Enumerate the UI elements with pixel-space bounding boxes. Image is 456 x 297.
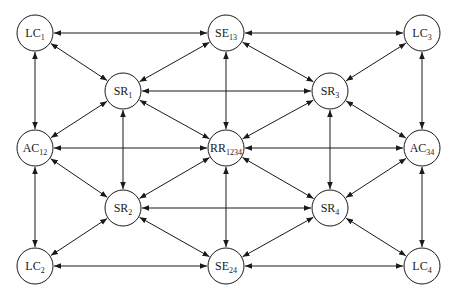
nodes-layer: LC1SE13LC3SR1SR3AC12RR1234AC34SR2SR4LC2S… <box>17 15 440 284</box>
node-label-subscript: 4 <box>335 208 339 217</box>
node-ac34: AC34 <box>404 130 440 166</box>
node-rr1234: RR1234 <box>208 130 244 166</box>
node-sr3: SR3 <box>312 73 348 109</box>
node-sr2: SR2 <box>105 190 141 226</box>
node-label-subscript: 12 <box>39 148 47 157</box>
edge-sr4-se24 <box>243 217 314 257</box>
edge-sr1-se13 <box>140 42 210 81</box>
node-label-base: AC <box>23 141 40 155</box>
node-label-base: LC <box>25 26 40 40</box>
node-label-base: SE <box>215 26 229 40</box>
edge-sr2-lc2 <box>51 218 107 255</box>
edge-sr4-lc4 <box>346 218 406 256</box>
edge-sr4-rr1234 <box>242 157 313 198</box>
node-label-subscript: 3 <box>428 33 432 42</box>
node-lc1: LC1 <box>17 15 53 51</box>
node-label-base: SR <box>321 201 336 215</box>
node-label-base: LC <box>25 259 40 273</box>
node-lc3: LC3 <box>404 15 440 51</box>
edge-sr3-ac34 <box>346 101 406 138</box>
diagram-canvas: LC1SE13LC3SR1SR3AC12RR1234AC34SR2SR4LC2S… <box>0 0 456 297</box>
node-label-base: LC <box>412 26 427 40</box>
edge-sr3-lc3 <box>346 43 406 81</box>
node-label-subscript: 3 <box>335 91 339 100</box>
node-se13: SE13 <box>208 15 244 51</box>
node-label-subscript: 34 <box>426 148 434 157</box>
edge-sr1-lc1 <box>51 43 107 80</box>
node-label-base: AC <box>410 141 427 155</box>
edge-sr1-rr1234 <box>140 100 210 139</box>
node-label-base: RR <box>210 141 226 155</box>
edge-sr2-se24 <box>140 217 210 256</box>
node-label-base: SE <box>215 259 229 273</box>
network-diagram: LC1SE13LC3SR1SR3AC12RR1234AC34SR2SR4LC2S… <box>0 0 456 297</box>
node-lc2: LC2 <box>17 248 53 284</box>
edge-sr2-rr1234 <box>139 158 209 199</box>
node-label-subscript: 1 <box>128 91 132 100</box>
node-lc4: LC4 <box>404 248 440 284</box>
edge-sr1-ac12 <box>51 101 107 137</box>
edge-sr2-ac12 <box>51 159 108 198</box>
edge-sr3-se13 <box>243 42 314 82</box>
node-label-subscript: 2 <box>128 208 132 217</box>
node-sr4: SR4 <box>312 190 348 226</box>
node-label-subscript: 4 <box>428 266 432 275</box>
node-label-subscript: 1 <box>41 33 45 42</box>
node-label-base: SR <box>114 201 129 215</box>
node-label-base: SR <box>321 84 336 98</box>
edge-sr4-ac34 <box>346 158 406 197</box>
node-sr1: SR1 <box>105 73 141 109</box>
node-label-subscript: 1234 <box>226 148 242 157</box>
node-label-subscript: 2 <box>41 266 45 275</box>
node-ac12: AC12 <box>17 130 53 166</box>
node-label-base: LC <box>412 259 427 273</box>
node-label-base: SR <box>114 84 129 98</box>
edge-sr3-rr1234 <box>243 100 314 139</box>
node-label-subscript: 13 <box>229 33 237 42</box>
node-se24: SE24 <box>208 248 244 284</box>
node-label-subscript: 24 <box>229 266 237 275</box>
